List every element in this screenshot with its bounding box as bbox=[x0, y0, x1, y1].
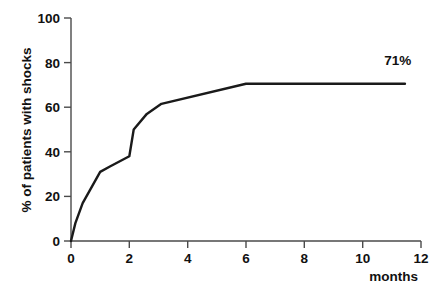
y-tick-label-80: 80 bbox=[45, 56, 60, 71]
x-tick-label-8: 8 bbox=[301, 251, 309, 266]
y-tick-label-40: 40 bbox=[45, 145, 60, 160]
chart-container: 100 80 60 40 20 0 0 2 4 6 8 10 12 months… bbox=[0, 0, 443, 297]
x-tick-label-6: 6 bbox=[242, 251, 250, 266]
x-tick-label-4: 4 bbox=[184, 251, 192, 266]
x-axis-title: months bbox=[369, 269, 418, 284]
x-tick-label-2: 2 bbox=[126, 251, 134, 266]
y-tick-label-100: 100 bbox=[37, 11, 60, 26]
y-tick-label-20: 20 bbox=[45, 189, 60, 204]
line-chart: 100 80 60 40 20 0 0 2 4 6 8 10 12 months… bbox=[0, 0, 443, 297]
y-tick-label-60: 60 bbox=[45, 100, 60, 115]
plateau-value-label: 71% bbox=[384, 53, 411, 68]
y-axis-title: % of patients with shocks bbox=[19, 47, 34, 212]
y-tick-label-0: 0 bbox=[52, 234, 60, 249]
x-tick-label-10: 10 bbox=[355, 251, 370, 266]
x-tick-label-0: 0 bbox=[67, 251, 75, 266]
x-tick-label-12: 12 bbox=[413, 251, 428, 266]
